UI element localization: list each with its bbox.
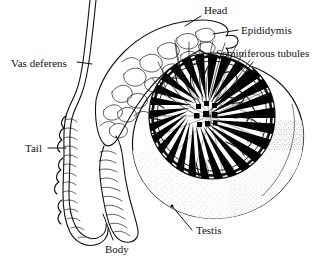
label-vas-deferens: Vas deferens bbox=[11, 57, 67, 69]
leader-testis-dot bbox=[171, 205, 174, 208]
label-testis: Testis bbox=[196, 224, 222, 236]
label-tail: Tail bbox=[25, 142, 42, 154]
label-epididymis: Epididymis bbox=[241, 24, 292, 36]
diagram-canvas: Head Epididymis Seminiferous tubules Vas… bbox=[0, 0, 321, 260]
label-seminiferous-tubules: Seminiferous tubules bbox=[216, 47, 309, 59]
label-head: Head bbox=[204, 4, 228, 16]
anatomy-figure: Head Epididymis Seminiferous tubules Vas… bbox=[0, 0, 321, 260]
label-body: Body bbox=[105, 243, 129, 255]
